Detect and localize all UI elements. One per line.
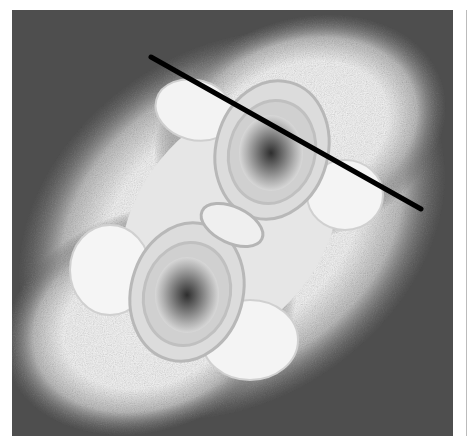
right-border-rule [466, 10, 467, 436]
density-map-figure [12, 10, 453, 436]
density-map-svg [12, 10, 453, 436]
